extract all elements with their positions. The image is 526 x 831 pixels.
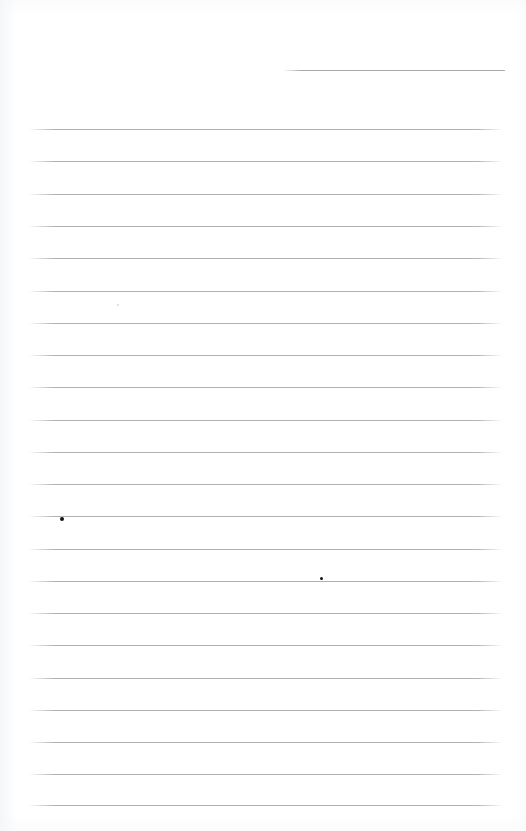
ruled-line bbox=[28, 420, 503, 421]
ruled-line bbox=[28, 742, 503, 743]
ruled-line bbox=[28, 710, 503, 711]
paper-grain-overlay bbox=[0, 0, 526, 831]
ruled-line bbox=[28, 645, 503, 646]
ruled-line bbox=[28, 678, 503, 679]
ruled-line bbox=[28, 194, 503, 195]
notepad-page bbox=[0, 0, 526, 831]
ruled-line bbox=[28, 387, 503, 388]
ruled-line bbox=[28, 291, 503, 292]
ink-dot-left bbox=[60, 517, 64, 521]
ruled-line bbox=[28, 613, 503, 614]
ruled-line bbox=[28, 774, 503, 775]
ruled-line bbox=[28, 226, 503, 227]
ruled-line bbox=[28, 258, 503, 259]
ruled-line bbox=[28, 355, 503, 356]
ruled-line bbox=[28, 161, 503, 162]
paper-speck bbox=[117, 304, 119, 306]
header-date-rule bbox=[283, 70, 505, 71]
ruled-line bbox=[28, 581, 503, 582]
ruled-line bbox=[28, 805, 503, 806]
ruled-line bbox=[28, 129, 503, 130]
ruled-line bbox=[28, 452, 503, 453]
ruled-line bbox=[28, 323, 503, 324]
ruled-line bbox=[28, 516, 503, 517]
ruled-line bbox=[28, 549, 503, 550]
ruled-line bbox=[28, 484, 503, 485]
ink-dot-middle bbox=[320, 577, 323, 580]
